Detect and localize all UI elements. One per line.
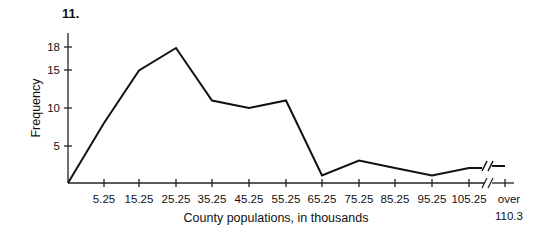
x-axis-title: County populations, in thousands [184, 211, 369, 225]
y-tick-labels: 18 15 10 5 [47, 41, 60, 152]
svg-text:5.25: 5.25 [93, 193, 115, 205]
svg-text:over: over [498, 193, 521, 205]
data-line-break-icon [482, 161, 493, 171]
svg-text:18: 18 [47, 41, 60, 53]
svg-text:25.25: 25.25 [162, 193, 191, 205]
svg-text:55.25: 55.25 [272, 193, 301, 205]
svg-text:35.25: 35.25 [198, 193, 227, 205]
y-axis-title: Frequency [29, 78, 43, 138]
svg-text:95.25: 95.25 [418, 193, 447, 205]
svg-text:110.3: 110.3 [495, 210, 523, 222]
svg-text:15.25: 15.25 [125, 193, 154, 205]
svg-text:10: 10 [47, 102, 60, 114]
svg-text:85.25: 85.25 [381, 193, 410, 205]
svg-text:5: 5 [54, 140, 60, 152]
frequency-line [68, 48, 482, 183]
svg-text:65.25: 65.25 [308, 193, 337, 205]
svg-text:105.25: 105.25 [451, 193, 486, 205]
svg-text:15: 15 [47, 64, 60, 76]
svg-text:75.25: 75.25 [345, 193, 374, 205]
svg-text:45.25: 45.25 [235, 193, 264, 205]
frequency-polygon-chart: 18 15 10 5 Frequency 5.25 15.25 25.25 35… [0, 0, 548, 242]
